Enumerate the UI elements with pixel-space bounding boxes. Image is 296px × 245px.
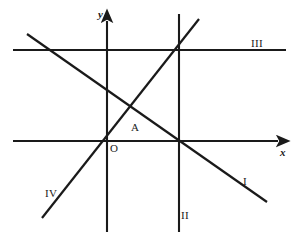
line-label-iii: III bbox=[251, 38, 263, 49]
line-label-iv: IV bbox=[45, 188, 57, 199]
line-i bbox=[27, 34, 267, 202]
line-iv bbox=[42, 19, 199, 218]
line-label-i: I bbox=[243, 176, 247, 187]
point-label-a: A bbox=[131, 122, 139, 133]
geometry-figure: x y I II III IV O A bbox=[0, 0, 296, 245]
y-axis-label: y bbox=[98, 9, 103, 20]
line-label-ii: II bbox=[181, 210, 189, 221]
point-label-o: O bbox=[110, 143, 118, 154]
x-axis-label: x bbox=[280, 147, 286, 158]
